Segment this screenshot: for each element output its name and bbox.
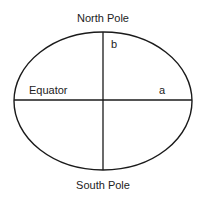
north-pole-label: North Pole [77,12,129,24]
equator-label: Equator [29,84,68,96]
ellipse-diagram: North Pole South Pole Equator a b [0,0,206,201]
semi-minor-axis-label: b [111,38,117,50]
south-pole-label: South Pole [76,179,130,191]
semi-major-axis-label: a [159,84,166,96]
